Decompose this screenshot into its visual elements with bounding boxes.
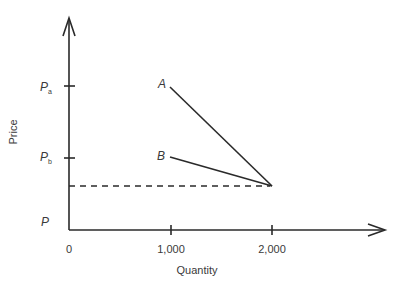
curve-b-label: B	[157, 149, 165, 163]
x-tick-label-2000: 2,000	[258, 243, 286, 255]
y-axis-title: Price	[7, 119, 19, 144]
pa-subscript: a	[48, 88, 52, 95]
y-label-pa: P a	[40, 80, 52, 95]
y-label-pb: P b	[40, 150, 52, 165]
origin-label: 0	[66, 243, 72, 255]
pb-main: P	[40, 150, 48, 164]
price-quantity-diagram: A B P a P b P 0 1,000 2,000 Quantity Pri…	[0, 0, 398, 287]
x-tick-label-1000: 1,000	[157, 243, 185, 255]
pb-subscript: b	[48, 158, 52, 165]
curve-a-label: A	[157, 77, 166, 91]
y-label-p: P	[41, 215, 49, 229]
x-axis-title: Quantity	[177, 264, 218, 276]
pa-main: P	[40, 80, 48, 94]
